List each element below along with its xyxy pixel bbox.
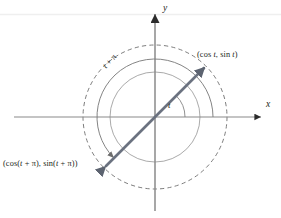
diagram-graphics xyxy=(0,0,281,218)
y-axis-label: y xyxy=(163,3,167,13)
figure-canvas: y x t t + π (cos t, sin t) (cos(t + π), … xyxy=(0,0,281,218)
angle-t-label: t xyxy=(168,100,171,110)
x-axis-label: x xyxy=(266,99,270,109)
point-cos-t-sin-t-label: (cos t, sin t) xyxy=(197,50,238,59)
point-cos-t-pi-sin-t-pi-label: (cos(t + π), sin(t + π)) xyxy=(3,159,78,168)
angle-t-arc xyxy=(176,96,185,117)
